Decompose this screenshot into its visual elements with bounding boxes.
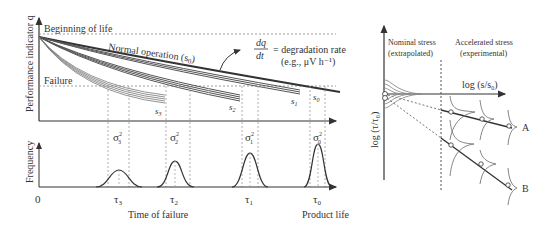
y-axis-label: Performance indicator q: [24, 15, 35, 112]
acceleration-plot: Nominal stress (extrapolated) Accelerate…: [369, 26, 530, 205]
accelerated-label-1: Accelerated stress: [455, 38, 513, 47]
accelerated-label-2: (experimental): [460, 49, 507, 58]
tick-tau1: τ1: [245, 193, 253, 207]
nominal-label-2: (extrapolated): [388, 49, 433, 58]
degradation-diagram: Beginning of life Failure Performance in…: [0, 0, 551, 226]
nominal-label-1: Nominal stress: [388, 38, 436, 47]
freq-axis-label: Frequency: [24, 141, 35, 183]
variance-label-2: σ22: [170, 131, 179, 145]
failure-label: Failure: [44, 75, 73, 86]
variance-label-0: σ20: [313, 131, 322, 145]
variance-label-3: σ23: [113, 131, 122, 145]
variance-label-1: σ21: [245, 131, 254, 145]
tick-tau3: τ3: [114, 193, 122, 207]
label-s2: s2: [229, 102, 236, 113]
right-y-axis-label: log (τ/τ₀): [369, 112, 381, 148]
label-s3: s3: [155, 106, 162, 117]
tick-tau2: τ2: [170, 193, 178, 207]
beginning-label: Beginning of life: [44, 23, 113, 34]
tick-tau0: τ0: [313, 193, 321, 207]
degradation-equation: dq dt = degradation rate (e.g., μV h⁻¹): [254, 37, 346, 68]
product-life-label: Product life: [302, 209, 349, 220]
svg-text:= degradation rate: = degradation rate: [273, 44, 346, 55]
line-label-a: A: [522, 122, 530, 133]
right-x-axis-label: log (s/s0): [462, 79, 498, 91]
performance-plot: Beginning of life Failure Performance in…: [24, 15, 346, 121]
label-s0: s0: [313, 92, 320, 103]
tick-zero: 0: [35, 193, 41, 205]
rate-arrow: [220, 50, 240, 70]
svg-text:dq: dq: [256, 37, 266, 48]
line-label-b: B: [522, 183, 529, 194]
label-s1: s1: [291, 96, 298, 107]
frequency-plot: Frequency σ23 σ22 σ21 σ20 0 τ3 τ2 τ1 τ0 …: [24, 131, 349, 220]
svg-text:(e.g., μV h⁻¹): (e.g., μV h⁻¹): [281, 56, 335, 68]
svg-text:dt: dt: [256, 50, 264, 61]
dist-tau2: [157, 161, 194, 187]
line-b-distributions: [450, 120, 517, 205]
time-of-failure-label: Time of failure: [128, 209, 189, 220]
